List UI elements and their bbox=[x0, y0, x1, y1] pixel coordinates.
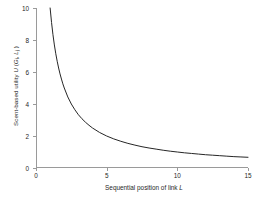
y-axis-label-g-sub: i bbox=[15, 58, 20, 59]
y-axis-label-u: U bbox=[12, 68, 19, 73]
x-axis-label: Sequential position of link L bbox=[36, 184, 252, 191]
y-axis-label-comma: , bbox=[12, 55, 19, 59]
x-tick-15 bbox=[248, 168, 249, 171]
y-tick-label-4: 4 bbox=[25, 101, 29, 108]
y-axis-label-paren-open: ( bbox=[12, 64, 19, 68]
y-axis-label-l: L bbox=[12, 51, 19, 55]
y-tick-label-2: 2 bbox=[25, 133, 29, 140]
y-tick-label-6: 6 bbox=[25, 69, 29, 76]
y-axis-label-text: Scent-based utility bbox=[12, 73, 19, 126]
x-tick-label-5: 5 bbox=[105, 172, 109, 179]
x-tick-0 bbox=[36, 168, 37, 171]
y-axis-label: Scent-based utility U (Gi, Lj ) bbox=[10, 2, 22, 170]
x-axis-label-l: L bbox=[179, 184, 183, 191]
x-axis-label-text: Sequential position of link bbox=[105, 184, 179, 191]
x-tick-label-15: 15 bbox=[244, 172, 251, 179]
y-axis-label-paren-close: ) bbox=[12, 46, 19, 50]
plot-area: 0246810 051015 bbox=[36, 8, 248, 168]
chart-figure: Scent-based utility U (Gi, Lj ) 0246810 … bbox=[0, 0, 264, 202]
x-tick-5 bbox=[107, 168, 108, 171]
x-tick-10 bbox=[177, 168, 178, 171]
x-tick-label-10: 10 bbox=[174, 172, 181, 179]
x-tick-label-0: 0 bbox=[34, 172, 38, 179]
y-axis-label-g: G bbox=[12, 59, 19, 64]
y-tick-label-8: 8 bbox=[25, 37, 29, 44]
y-axis-label-l-sub: j bbox=[15, 50, 20, 51]
y-tick-label-10: 10 bbox=[22, 5, 29, 12]
series-line-scent-utility bbox=[50, 8, 248, 157]
y-tick-label-0: 0 bbox=[25, 165, 29, 172]
data-curve-svg bbox=[36, 8, 248, 168]
